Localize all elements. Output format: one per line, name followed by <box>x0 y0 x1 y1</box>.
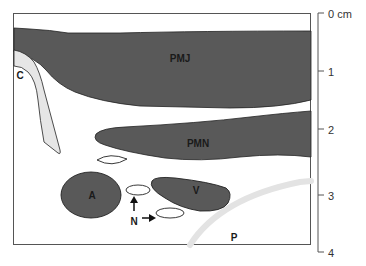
label-pmj: PMJ <box>170 53 191 64</box>
label-v: V <box>193 185 200 196</box>
tick-1: 1 <box>328 66 334 78</box>
n-nerve-lower <box>156 208 184 218</box>
label-a: A <box>88 190 95 201</box>
depth-scale: 0 cm 1 2 3 4 <box>318 8 352 259</box>
label-p: P <box>231 232 238 243</box>
label-n: N <box>130 216 137 227</box>
tick-2: 2 <box>328 124 334 136</box>
label-c: C <box>16 70 23 81</box>
tick-3: 3 <box>328 190 334 202</box>
tick-0: 0 cm <box>328 8 352 20</box>
tick-4: 4 <box>328 247 334 259</box>
n-nerve-upper <box>126 185 150 195</box>
label-pmn: PMN <box>187 138 209 149</box>
anatomy-diagram: PMJ PMN C A V N P 0 cm 1 2 3 4 <box>0 0 366 266</box>
